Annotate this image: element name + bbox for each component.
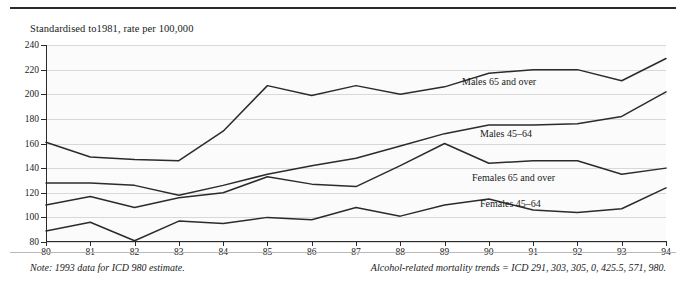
series-line-males-65-plus (46, 59, 666, 161)
series-label-0: Males 65 and over (460, 76, 538, 87)
y-axis-label-240: 240 (25, 40, 39, 50)
y-axis-label-160: 160 (25, 139, 39, 149)
y-axis-label-200: 200 (25, 89, 39, 99)
top-rule-divider (10, 7, 676, 9)
footer-divider (10, 252, 676, 253)
plot-area: 80100120140160180200220240 8081828384858… (46, 45, 666, 242)
x-tick-94 (666, 241, 667, 246)
y-axis-label-140: 140 (25, 163, 39, 173)
chart-units-title: Standardised to1981, rate per 100,000 (30, 22, 194, 35)
series-line-males-45-64 (46, 92, 666, 195)
series-line-females-45-64 (46, 188, 666, 241)
y-axis-label-220: 220 (25, 65, 39, 75)
series-line-females-65-plus (46, 144, 666, 208)
y-axis-label-120: 120 (25, 188, 39, 198)
series-label-2: Females 65 and over (470, 172, 557, 183)
series-label-1: Males 45–64 (478, 128, 534, 139)
y-axis-label-80: 80 (30, 237, 40, 247)
footnote-right: Alcohol-related mortality trends = ICD 2… (371, 262, 666, 273)
y-axis-label-100: 100 (25, 212, 39, 222)
y-axis-label-180: 180 (25, 114, 39, 124)
figure-container: Standardised to1981, rate per 100,000 80… (0, 0, 686, 291)
footnote-left: Note: 1993 data for ICD 980 estimate. (30, 262, 185, 273)
series-lines-group (46, 45, 666, 242)
series-label-3: Females 45–64 (478, 198, 543, 209)
